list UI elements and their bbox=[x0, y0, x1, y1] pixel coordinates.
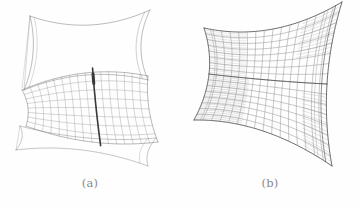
figure-root: (a) (b) bbox=[0, 0, 360, 208]
surface-wireframe-b bbox=[180, 0, 360, 180]
surface-b-back-band-row bbox=[209, 78, 249, 82]
panel-b-caption: (b) bbox=[180, 176, 360, 190]
surface-a-highlight-node bbox=[93, 74, 94, 84]
panel-a-caption: (a) bbox=[0, 176, 180, 190]
figure-panel-a: (a) bbox=[0, 0, 180, 208]
surface-a-back-right-fold bbox=[136, 12, 145, 78]
surface-b-back-band-row bbox=[208, 80, 248, 84]
surface-a-back-chord-left bbox=[24, 16, 30, 90]
surface-a-back-right-edge bbox=[141, 10, 150, 80]
surface-b-mesh-row bbox=[204, 2, 342, 32]
surface-wireframe-a bbox=[0, 0, 180, 180]
surface-a-lower-top-edge bbox=[20, 126, 156, 140]
surface-a-lower-chord-left bbox=[16, 126, 20, 150]
surface-b-mesh-column bbox=[326, 2, 342, 166]
surface-a-lower-right-fold bbox=[139, 139, 147, 164]
surface-a-mesh-column bbox=[147, 76, 158, 142]
surface-b-mesh-row bbox=[194, 120, 332, 166]
figure-panel-b: (b) bbox=[180, 0, 360, 208]
surface-a-lower-bottom-edge bbox=[16, 148, 148, 166]
surface-b-right-band-row bbox=[303, 2, 342, 21]
surface-a-mesh-column bbox=[22, 90, 28, 126]
surface-b-mesh-row bbox=[206, 91, 327, 115]
surface-b-back-band-row bbox=[208, 82, 248, 86]
surface-a-back-top-edge bbox=[30, 10, 150, 25]
